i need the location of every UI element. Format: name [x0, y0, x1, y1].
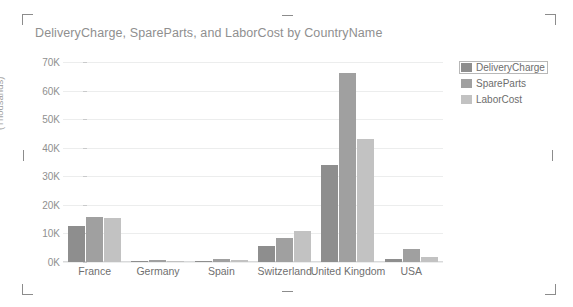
y-axis-tick-label: 10K [42, 228, 60, 239]
bars-layer [63, 62, 443, 262]
bar[interactable] [258, 246, 275, 262]
y-axis-tick-mark [83, 262, 87, 263]
bar[interactable] [339, 73, 356, 262]
legend-item[interactable]: DeliveryCharge [459, 61, 548, 74]
bar-group[interactable] [380, 62, 443, 262]
bar[interactable] [68, 226, 85, 262]
y-axis-tick-label: 0K [48, 257, 60, 268]
resize-handle-bottom-right[interactable] [545, 284, 556, 295]
bar[interactable] [357, 139, 374, 262]
legend-swatch-icon [461, 63, 472, 72]
bar[interactable] [213, 259, 230, 262]
x-axis-tick-label: Spain [208, 265, 235, 277]
x-axis-tick-label: United Kingdom [311, 265, 386, 277]
y-axis-tick-label: 70K [42, 57, 60, 68]
legend-item[interactable]: LaborCost [459, 93, 548, 106]
bar-group[interactable] [316, 62, 379, 262]
x-axis: FranceGermanySpainSwitzerlandUnited King… [63, 265, 443, 281]
x-axis-tick-label: Germany [136, 265, 179, 277]
bar[interactable] [231, 260, 248, 262]
legend-swatch-icon [461, 79, 472, 88]
bar[interactable] [195, 261, 212, 262]
bar[interactable] [149, 260, 166, 262]
chart-title: DeliveryCharge, SpareParts, and LaborCos… [35, 26, 382, 40]
bar-group[interactable] [190, 62, 253, 262]
resize-handle-bottom-center[interactable] [282, 291, 293, 292]
chart-legend: DeliveryChargeSparePartsLaborCost [459, 61, 548, 106]
bar[interactable] [104, 218, 121, 262]
bar-group[interactable] [63, 62, 126, 262]
y-axis-tick-label: 40K [42, 142, 60, 153]
resize-handle-top-left[interactable] [22, 14, 33, 25]
x-axis-tick-label: France [78, 265, 111, 277]
chart-visual[interactable]: DeliveryCharge, SpareParts, and LaborCos… [0, 0, 573, 307]
x-axis-tick-label: USA [401, 265, 423, 277]
legend-item-label: LaborCost [476, 94, 522, 105]
y-axis-tick-label: 60K [42, 85, 60, 96]
bar[interactable] [321, 165, 338, 262]
bar[interactable] [131, 261, 148, 262]
legend-item-label: SpareParts [476, 78, 526, 89]
bar[interactable] [385, 259, 402, 262]
bar-group[interactable] [253, 62, 316, 262]
resize-handle-top-right[interactable] [545, 14, 556, 25]
legend-swatch-icon [461, 95, 472, 104]
x-axis-tick-label: Switzerland [258, 265, 312, 277]
bar[interactable] [421, 257, 438, 262]
y-axis-title: (Thousands) [0, 77, 5, 130]
resize-handle-right-center[interactable] [552, 150, 553, 161]
bar[interactable] [276, 238, 293, 262]
bar[interactable] [294, 231, 311, 262]
y-axis: 0K10K20K30K40K50K60K70K [24, 62, 60, 262]
y-axis-tick-label: 30K [42, 171, 60, 182]
legend-item-label: DeliveryCharge [476, 62, 545, 73]
bar[interactable] [167, 261, 184, 262]
bar-group[interactable] [126, 62, 189, 262]
bar[interactable] [403, 249, 420, 262]
resize-handle-bottom-left[interactable] [22, 284, 33, 295]
resize-handle-top-center[interactable] [282, 15, 293, 16]
legend-item[interactable]: SpareParts [459, 77, 548, 90]
bar[interactable] [86, 217, 103, 262]
y-axis-tick-label: 20K [42, 199, 60, 210]
y-axis-tick-label: 50K [42, 114, 60, 125]
gridline [63, 262, 443, 263]
